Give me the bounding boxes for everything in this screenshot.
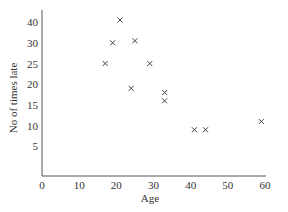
- x-marker-icon: [162, 90, 167, 95]
- x-marker-icon: [162, 98, 167, 103]
- x-axis-label: Age: [141, 192, 159, 204]
- y-tick-label: 10: [27, 120, 39, 132]
- x-marker-icon: [118, 18, 123, 23]
- scatter-chart: 0102030405060 5101520253040 Age No of ti…: [0, 0, 288, 212]
- x-marker-icon: [192, 127, 197, 132]
- x-tick-label: 20: [111, 179, 123, 191]
- x-marker-icon: [259, 119, 264, 124]
- y-tick-labels: 5101520253040: [27, 16, 39, 152]
- x-marker-icon: [110, 40, 115, 45]
- y-tick-label: 40: [27, 16, 39, 28]
- x-tick-label: 60: [260, 179, 272, 191]
- y-tick-label: 30: [27, 37, 39, 49]
- x-marker-icon: [132, 38, 137, 43]
- axes: [42, 10, 266, 176]
- x-tick-label: 50: [222, 179, 234, 191]
- y-tick-label: 25: [27, 58, 39, 70]
- x-marker-icon: [129, 86, 134, 91]
- y-axis-label: No of times late: [7, 63, 19, 134]
- data-points: [103, 18, 264, 133]
- y-tick-label: 20: [27, 78, 39, 90]
- chart-canvas: 0102030405060 5101520253040 Age No of ti…: [0, 0, 288, 212]
- x-tick-label: 10: [74, 179, 86, 191]
- y-tick-label: 15: [27, 99, 39, 111]
- x-tick-label: 0: [39, 179, 45, 191]
- x-marker-icon: [147, 61, 152, 66]
- x-tick-labels: 0102030405060: [39, 179, 271, 191]
- x-tick-label: 40: [185, 179, 197, 191]
- y-tick-label: 5: [33, 140, 39, 152]
- x-marker-icon: [103, 61, 108, 66]
- x-marker-icon: [203, 127, 208, 132]
- x-tick-label: 30: [148, 179, 160, 191]
